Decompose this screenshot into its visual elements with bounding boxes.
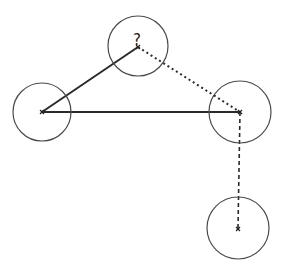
graph-diagram: ? xyxy=(0,0,282,272)
edge-left-top xyxy=(42,47,138,112)
edge-top-right xyxy=(138,47,240,112)
node-top: ? xyxy=(108,16,168,76)
edge-right-bottom xyxy=(238,112,240,228)
